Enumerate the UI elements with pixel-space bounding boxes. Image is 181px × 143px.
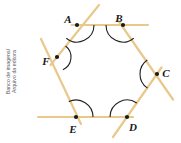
vertex-dot-a (75, 23, 79, 27)
vertex-label-a: A (63, 13, 71, 25)
arc-E (69, 100, 93, 117)
vertex-label-c: C (162, 67, 170, 79)
vertex-dot-c (155, 72, 159, 76)
vertex-dot-f (55, 55, 59, 59)
vertex-label-f: F (41, 55, 50, 67)
vertex-dot-e (74, 115, 78, 119)
hexagon-diagram: ABCDEF (0, 0, 181, 143)
vertex-dot-d (125, 115, 129, 119)
arc-B (106, 25, 134, 42)
side-BC (119, 21, 174, 100)
hexagon-sides (38, 5, 173, 137)
side-CD (113, 68, 162, 138)
vertex-dots (55, 23, 159, 119)
vertex-label-b: B (114, 12, 122, 24)
vertex-label-d: D (128, 121, 137, 133)
vertex-label-e: E (68, 123, 76, 135)
arc-C (140, 60, 147, 88)
figure-canvas: ABCDEF Banco de imagens/ Arquivo da edit… (0, 0, 181, 143)
exterior-angle-arcs (63, 25, 148, 117)
